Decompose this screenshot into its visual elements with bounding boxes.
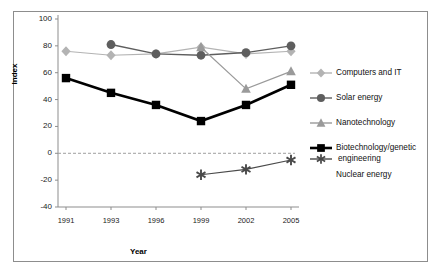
data-point-diamond <box>61 46 70 56</box>
data-point-circle <box>197 51 206 60</box>
series-4 <box>62 74 295 125</box>
legend-label[interactable]: engineering <box>338 154 381 165</box>
legend-swatch-3 <box>310 118 332 126</box>
data-point-square <box>197 117 205 125</box>
data-point-circle <box>287 41 296 50</box>
data-point-square <box>152 101 160 109</box>
data-point-diamond <box>317 68 325 77</box>
data-point-square <box>242 101 250 109</box>
data-point-circle <box>152 50 161 59</box>
legend-swatch-1 <box>310 68 332 77</box>
legend-swatch-4 <box>310 144 332 152</box>
data-point-diamond <box>106 50 115 60</box>
data-point-square <box>62 74 70 82</box>
legend-swatch-2 <box>310 94 332 102</box>
data-point-triangle <box>286 66 296 75</box>
legend-swatch-5 <box>310 154 332 164</box>
legend-label[interactable]: Solar energy <box>336 93 382 104</box>
data-point-circle <box>107 40 116 49</box>
legend-label[interactable]: Computers and IT <box>336 68 402 79</box>
legend-label[interactable]: Biotechnology/genetic <box>336 143 416 154</box>
data-point-square <box>107 89 115 97</box>
series-1 <box>61 42 295 60</box>
legend-label[interactable]: Nanotechnology <box>336 118 395 129</box>
chart-plot-area <box>0 0 437 272</box>
data-point-circle <box>242 48 251 57</box>
data-point-square <box>317 144 325 152</box>
legend-label[interactable]: Nuclear energy <box>336 170 392 181</box>
series-5 <box>196 155 295 180</box>
data-point-circle <box>317 94 325 102</box>
data-point-square <box>287 81 295 89</box>
data-point-asterisk <box>286 155 295 165</box>
